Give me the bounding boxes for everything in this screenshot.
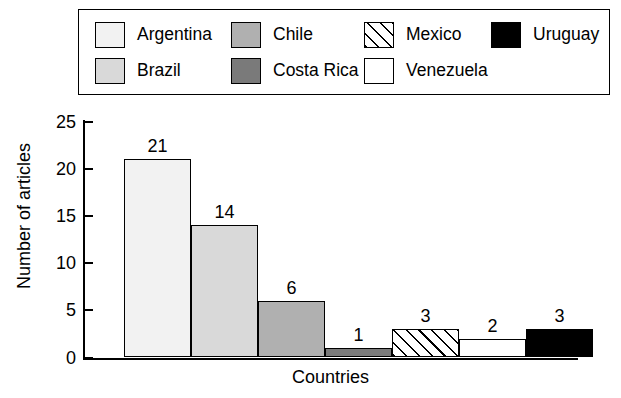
y-tick-mark (85, 121, 93, 123)
y-tick-label-wrap: 10 (32, 254, 76, 272)
y-tick-label: 5 (32, 301, 76, 319)
x-axis-line (83, 358, 578, 360)
bar-value-label: 1 (325, 326, 392, 344)
y-tick-mark (85, 215, 93, 217)
bar-venezuela (459, 339, 526, 358)
bar-argentina (124, 159, 191, 357)
plot-area: 0510152025 211461323 Number of articles … (0, 0, 621, 398)
y-tick-label-wrap: 25 (32, 113, 76, 131)
bar-value-label: 3 (392, 307, 459, 325)
y-tick-label-wrap: 20 (32, 160, 76, 178)
y-tick-label: 15 (32, 207, 76, 225)
bar-costa-rica (325, 348, 392, 357)
y-axis-title: Number of articles (15, 116, 33, 316)
y-tick-label: 25 (32, 113, 76, 131)
bar-value-label: 2 (459, 317, 526, 335)
bar-value-label: 3 (526, 307, 593, 325)
y-tick-mark (85, 262, 93, 264)
bar-mexico (392, 329, 459, 357)
bar-value-label: 14 (191, 203, 258, 221)
bar-chile (258, 301, 325, 358)
bar-value-label: 21 (124, 137, 191, 155)
bar-uruguay (526, 329, 593, 357)
y-tick-label: 20 (32, 160, 76, 178)
x-axis-title: Countries (83, 368, 578, 386)
y-axis-line (83, 120, 85, 360)
y-tick-mark (85, 357, 93, 359)
y-tick-label-wrap: 15 (32, 207, 76, 225)
y-tick-label-wrap: 5 (32, 301, 76, 319)
y-tick-label: 10 (32, 254, 76, 272)
y-tick-mark (85, 168, 93, 170)
bar-brazil (191, 225, 258, 357)
y-tick-mark (85, 309, 93, 311)
bar-value-label: 6 (258, 279, 325, 297)
y-tick-label-wrap: 0 (32, 349, 76, 367)
bar-chart-figure: ArgentinaChileMexicoUruguay BrazilCosta … (0, 0, 621, 398)
y-tick-label: 0 (32, 349, 76, 367)
